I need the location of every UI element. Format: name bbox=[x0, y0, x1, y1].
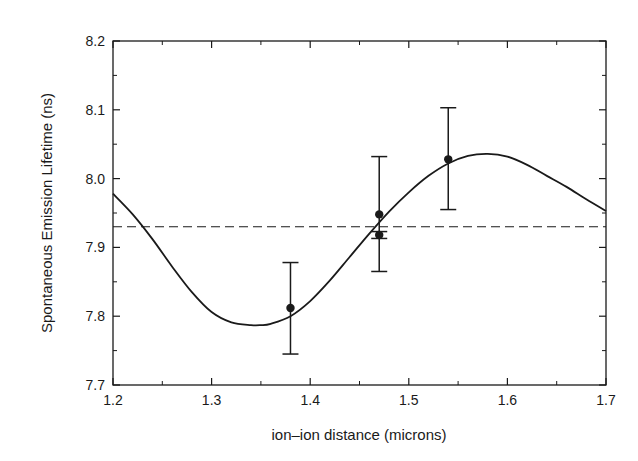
theory-curve bbox=[113, 154, 606, 326]
data-point bbox=[375, 231, 383, 239]
x-tick-label: 1.3 bbox=[202, 392, 222, 408]
y-tick-label: 7.8 bbox=[86, 308, 106, 324]
data-point-with-errorbar bbox=[371, 157, 387, 272]
data-point-with-errorbar bbox=[371, 231, 387, 239]
data-point bbox=[375, 210, 383, 218]
x-axis-label: ion–ion distance (microns) bbox=[271, 426, 446, 443]
chart: 1.21.31.41.51.61.7 7.77.87.98.08.18.2 io… bbox=[0, 0, 638, 461]
plot-border bbox=[113, 41, 606, 385]
x-tick-label: 1.4 bbox=[300, 392, 320, 408]
data-points-group bbox=[282, 108, 456, 354]
x-tick-label: 1.2 bbox=[103, 392, 123, 408]
y-tick-label: 8.0 bbox=[86, 171, 106, 187]
y-axis-label: Spontaneous Emission Lifetime (ns) bbox=[38, 93, 55, 333]
y-axis-ticks: 7.77.87.98.08.18.2 bbox=[86, 33, 606, 393]
data-point-with-errorbar bbox=[282, 263, 298, 355]
x-tick-label: 1.5 bbox=[399, 392, 419, 408]
y-tick-label: 8.2 bbox=[86, 33, 106, 49]
x-axis-ticks: 1.21.31.41.51.61.7 bbox=[103, 41, 616, 408]
y-tick-label: 7.9 bbox=[86, 239, 106, 255]
data-point bbox=[444, 155, 452, 163]
data-point bbox=[286, 304, 294, 312]
theory-curve-group bbox=[113, 154, 606, 326]
plot-frame bbox=[113, 41, 606, 385]
y-tick-label: 8.1 bbox=[86, 102, 106, 118]
x-tick-label: 1.7 bbox=[596, 392, 616, 408]
x-tick-label: 1.6 bbox=[498, 392, 518, 408]
y-tick-label: 7.7 bbox=[86, 377, 106, 393]
data-point-with-errorbar bbox=[440, 108, 456, 210]
